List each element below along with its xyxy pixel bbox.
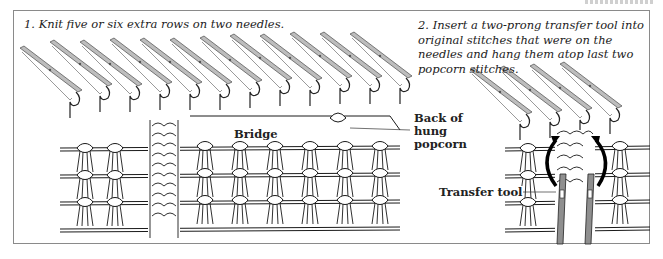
- popcorn-column: [148, 118, 180, 238]
- bridge-label: Bridge: [233, 128, 279, 141]
- knitted-fabric-panel-2: [505, 130, 650, 244]
- needles-panel-1: [20, 32, 412, 118]
- transfer-tool-label: Transfer tool: [438, 186, 523, 199]
- step-1-caption: 1. Knit five or six extra rows on two ne…: [24, 17, 284, 32]
- step-2-caption: 2. Insert a two-prong transfer tool into…: [418, 18, 654, 76]
- back-of-hung-popcorn-label: Back of hung popcorn: [413, 112, 475, 151]
